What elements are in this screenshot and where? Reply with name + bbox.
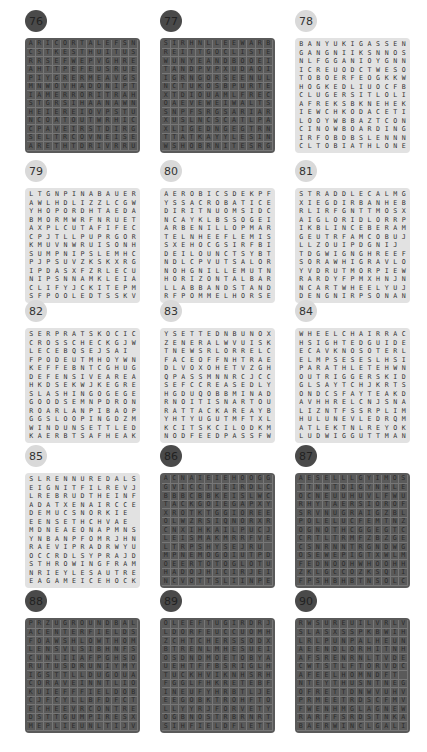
grid-letter: N	[95, 216, 104, 225]
grid-letter: O	[44, 339, 53, 348]
letter-grid: ARICORTALEFSNCSTKESTHUITUSRRSEFWEPVGHREA…	[25, 38, 140, 153]
puzzle-number-badge: 87	[295, 445, 317, 467]
grid-letter: N	[399, 134, 408, 143]
grid-letter: U	[129, 142, 138, 151]
grid-letter: S	[374, 40, 383, 49]
grid-letter: K	[188, 501, 197, 510]
grid-letter: C	[188, 258, 197, 267]
grid-letter: L	[188, 250, 197, 259]
grid-letter: E	[121, 424, 130, 433]
grid-letter: D	[61, 199, 70, 208]
grid-letter: D	[213, 432, 222, 441]
grid-letter: I	[382, 267, 391, 276]
grid-letter: G	[247, 216, 256, 225]
grid-letter: J	[44, 233, 53, 242]
grid-letter: N	[264, 267, 273, 276]
grid-letter: L	[95, 484, 104, 493]
grid-letter: U	[104, 569, 113, 578]
grid-letter: N	[348, 424, 357, 433]
grid-letter: U	[314, 91, 323, 100]
grid-letter: F	[78, 484, 87, 493]
grid-letter: P	[399, 216, 408, 225]
grid-letter: C	[399, 663, 408, 672]
grid-letter: U	[87, 663, 96, 672]
grid-letter: Y	[121, 543, 130, 552]
grid-letter: M	[357, 233, 366, 242]
grid-letter: S	[78, 552, 87, 561]
grid-letter: I	[196, 722, 205, 731]
grid-letter: I	[348, 484, 357, 493]
grid-letter: S	[188, 373, 197, 382]
grid-letter: C	[87, 518, 96, 527]
grid-letter: F	[256, 432, 265, 441]
grid-letter: C	[297, 91, 306, 100]
grid-letter: A	[112, 552, 121, 561]
grid-letter: J	[391, 275, 400, 284]
grid-letter: I	[179, 484, 188, 493]
grid-letter: S	[27, 250, 36, 259]
grid-letter: N	[179, 66, 188, 75]
grid-letter: T	[162, 501, 171, 510]
grid-letter: C	[264, 347, 273, 356]
grid-letter: K	[374, 381, 383, 390]
grid-letter: O	[95, 390, 104, 399]
grid-letter: T	[87, 492, 96, 501]
grid-letter: H	[179, 722, 188, 731]
letter-grid: AESELLLGYIMOSTTNNTDIGYNHLEOCNEUUHUVLFWUR…	[295, 473, 410, 588]
grid-letter: A	[391, 330, 400, 339]
grid-letter: T	[78, 330, 87, 339]
grid-letter: E	[264, 577, 273, 586]
grid-letter: S	[247, 49, 256, 58]
grid-letter: N	[399, 292, 408, 301]
grid-letter: H	[306, 330, 315, 339]
grid-letter: N	[78, 190, 87, 199]
grid-letter: I	[104, 224, 113, 233]
grid-letter: O	[87, 535, 96, 544]
grid-letter: S	[70, 373, 79, 382]
grid-letter: E	[239, 233, 248, 242]
grid-letter: A	[230, 199, 239, 208]
grid-letter: I	[121, 275, 130, 284]
grid-letter: U	[230, 66, 239, 75]
grid-letter: Y	[87, 552, 96, 561]
grid-letter: O	[61, 415, 70, 424]
grid-letter: O	[331, 216, 340, 225]
grid-letter: U	[306, 432, 315, 441]
grid-letter: E	[70, 577, 79, 586]
grid-letter: G	[323, 199, 332, 208]
grid-letter: N	[391, 57, 400, 66]
grid-letter: G	[297, 49, 306, 58]
grid-letter: D	[78, 207, 87, 216]
grid-letter: I	[340, 722, 349, 731]
grid-letter: N	[53, 484, 62, 493]
grid-letter: D	[399, 373, 408, 382]
grid-letter: R	[314, 100, 323, 109]
grid-letter: Z	[365, 117, 374, 126]
grid-letter: O	[196, 250, 205, 259]
grid-letter: N	[162, 432, 171, 441]
grid-letter: A	[239, 258, 248, 267]
grid-letter: E	[340, 415, 349, 424]
grid-letter: I	[297, 224, 306, 233]
grid-letter: E	[391, 250, 400, 259]
grid-letter: U	[205, 250, 214, 259]
grid-letter: T	[78, 356, 87, 365]
grid-letter: O	[121, 398, 130, 407]
grid-letter: I	[213, 501, 222, 510]
grid-letter: S	[171, 199, 180, 208]
grid-letter: N	[399, 57, 408, 66]
grid-letter: N	[213, 250, 222, 259]
grid-letter: K	[27, 364, 36, 373]
grid-letter: H	[179, 267, 188, 276]
grid-letter: U	[87, 233, 96, 242]
grid-letter: Y	[188, 415, 197, 424]
grid-letter: I	[340, 241, 349, 250]
grid-letter: G	[357, 484, 366, 493]
grid-letter: F	[104, 560, 113, 569]
grid-letter: V	[205, 258, 214, 267]
grid-letter: A	[239, 501, 248, 510]
grid-letter: T	[70, 518, 79, 527]
grid-letter: L	[162, 629, 171, 638]
grid-letter: K	[87, 258, 96, 267]
grid-letter: G	[121, 199, 130, 208]
